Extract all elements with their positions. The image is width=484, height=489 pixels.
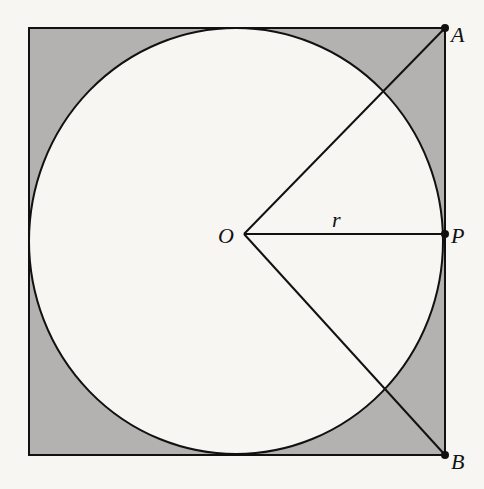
label-r: r <box>332 207 341 232</box>
inscribed-circle <box>29 28 443 454</box>
point-A <box>441 24 449 32</box>
label-P: P <box>450 223 464 248</box>
label-O: O <box>218 223 234 248</box>
label-B: B <box>451 449 464 474</box>
label-A: A <box>449 22 465 47</box>
point-B <box>441 451 449 459</box>
geometry-diagram: A P B O r <box>0 0 484 489</box>
point-P <box>441 230 449 238</box>
